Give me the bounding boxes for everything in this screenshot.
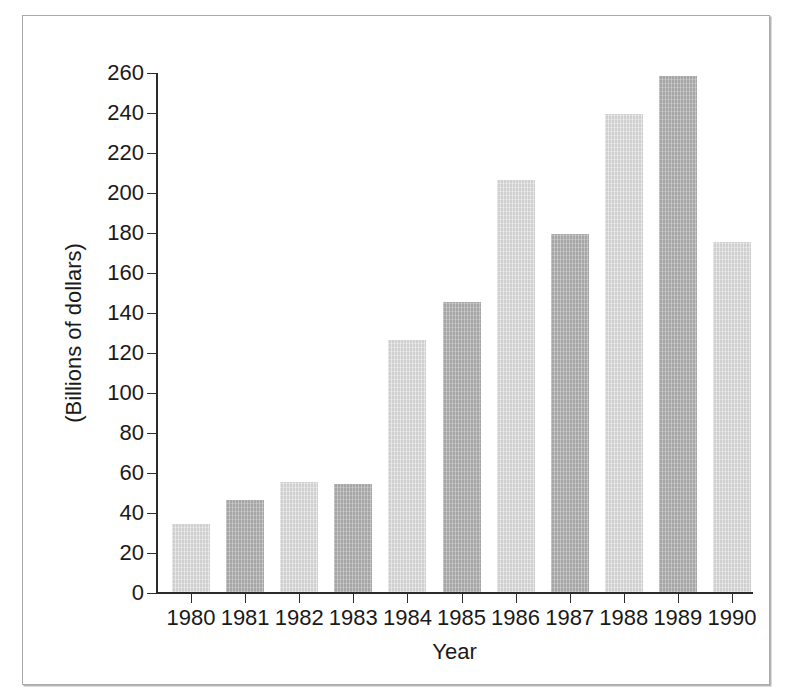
y-axis-tick-mark (147, 513, 156, 514)
y-axis-tick-label: 60 (120, 462, 144, 484)
plot-area: 020406080100120140160180200220240260 198… (156, 73, 751, 593)
bar-1986 (497, 180, 535, 592)
y-axis-tick-mark (147, 153, 156, 154)
y-axis-tick-mark (147, 113, 156, 114)
y-axis-tick-label: 260 (107, 62, 144, 84)
x-axis-tick-label: 1986 (491, 607, 540, 629)
y-axis-line (156, 73, 158, 594)
y-axis-tick-label: 160 (107, 262, 144, 284)
y-axis-tick-mark (147, 393, 156, 394)
x-axis-tick-mark (462, 594, 463, 603)
y-axis-tick-label: 100 (107, 382, 144, 404)
bar-1983 (334, 484, 372, 592)
x-axis-tick-mark (570, 594, 571, 603)
y-axis-tick-mark (147, 473, 156, 474)
bar-1989 (659, 76, 697, 592)
x-axis-tick-mark (299, 594, 300, 603)
y-axis-tick-label: 20 (120, 542, 144, 564)
y-axis-tick-mark (147, 433, 156, 434)
y-axis-tick-label: 80 (120, 422, 144, 444)
x-axis-tick-label: 1987 (545, 607, 594, 629)
x-axis-tick-mark (624, 594, 625, 603)
x-axis-tick-mark (516, 594, 517, 603)
x-axis-tick-label: 1984 (383, 607, 432, 629)
y-axis-tick-label: 140 (107, 302, 144, 324)
x-axis-tick-mark (353, 594, 354, 603)
y-axis-tick-label: 200 (107, 182, 144, 204)
y-axis-tick-label: 40 (120, 502, 144, 524)
y-axis-tick-mark (147, 553, 156, 554)
x-axis-tick-label: 1983 (329, 607, 378, 629)
y-axis-tick-mark (147, 273, 156, 274)
y-axis-tick-label: 0 (132, 582, 144, 604)
x-axis-tick-mark (407, 594, 408, 603)
y-axis-tick-label: 220 (107, 142, 144, 164)
bar-1981 (226, 500, 264, 592)
figure-frame: (Billions of dollars) 020406080100120140… (22, 15, 770, 685)
y-axis-title: (Billions of dollars) (59, 73, 89, 593)
bar-1982 (280, 482, 318, 592)
bar-1985 (443, 302, 481, 592)
x-axis-tick-label: 1988 (599, 607, 648, 629)
y-axis-tick-mark (147, 353, 156, 354)
x-axis-tick-label: 1982 (275, 607, 324, 629)
bar-1987 (551, 234, 589, 592)
bar-1988 (605, 114, 643, 592)
y-axis-tick-mark (147, 73, 156, 74)
y-axis-tick-label: 240 (107, 102, 144, 124)
x-axis-tick-label: 1981 (221, 607, 270, 629)
y-axis-tick-mark (147, 313, 156, 314)
x-axis-tick-mark (732, 594, 733, 603)
bar-1980 (172, 524, 210, 592)
y-axis-tick-mark (147, 593, 156, 594)
x-axis-tick-label: 1990 (707, 607, 756, 629)
x-axis-tick-label: 1985 (437, 607, 486, 629)
y-axis-tick-mark (147, 233, 156, 234)
y-axis-tick-label: 180 (107, 222, 144, 244)
x-axis-title: Year (156, 641, 753, 663)
bar-1984 (388, 340, 426, 592)
x-axis-tick-mark (191, 594, 192, 603)
bar-1990 (713, 242, 751, 592)
x-axis-tick-mark (678, 594, 679, 603)
x-axis-tick-mark (245, 594, 246, 603)
y-axis-tick-mark (147, 193, 156, 194)
y-axis-title-label: (Billions of dollars) (63, 243, 85, 423)
x-axis-tick-label: 1980 (167, 607, 216, 629)
y-axis-tick-label: 120 (107, 342, 144, 364)
x-axis-tick-label: 1989 (653, 607, 702, 629)
